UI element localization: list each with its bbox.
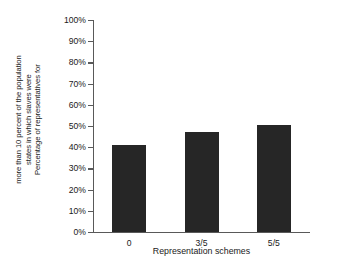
y-axis-tick-mark — [88, 105, 93, 106]
bar — [112, 145, 146, 232]
y-axis-title-line-2: states in which slaves were — [23, 75, 33, 166]
y-axis-tick-mark — [88, 41, 93, 42]
y-axis-line — [93, 20, 94, 232]
y-axis-tick-label: 20% — [69, 185, 86, 195]
y-axis-tick-mark — [88, 126, 93, 127]
bar — [185, 132, 219, 232]
y-axis-title-text: Percentage of representatives for states… — [13, 56, 42, 185]
y-axis-tick-label: 50% — [69, 121, 86, 131]
y-axis-tick-mark — [88, 20, 93, 21]
y-axis-title: Percentage of representatives for states… — [0, 0, 56, 240]
x-axis-title: Representation schemes — [93, 246, 310, 256]
y-axis-tick-label: 100% — [64, 15, 86, 25]
y-axis-title-line-1: Percentage of representatives for — [33, 65, 43, 176]
bar — [257, 125, 291, 232]
y-axis-tick-mark — [88, 62, 93, 63]
y-axis-tick-label: 60% — [69, 100, 86, 110]
y-axis-title-line-3: more than 10 percent of the population — [13, 56, 23, 185]
y-axis-tick-label: 70% — [69, 79, 86, 89]
y-axis-tick-mark — [88, 232, 93, 233]
y-axis-tick-label: 80% — [69, 57, 86, 67]
bar-chart-figure: Percentage of representatives for states… — [0, 0, 342, 267]
plot-area: 0%10%20%30%40%50%60%70%80%90%100% 03/55/… — [93, 20, 310, 232]
y-axis-tick-label: 30% — [69, 163, 86, 173]
y-axis-tick-label: 40% — [69, 142, 86, 152]
y-axis-tick-mark — [88, 190, 93, 191]
y-axis-tick-mark — [88, 168, 93, 169]
y-axis-tick-mark — [88, 147, 93, 148]
y-axis-tick-label: 0% — [74, 227, 86, 237]
y-axis-tick-label: 10% — [69, 206, 86, 216]
y-axis-tick-label: 90% — [69, 36, 86, 46]
x-axis-line — [93, 232, 310, 233]
y-axis-tick-mark — [88, 211, 93, 212]
y-axis-tick-mark — [88, 84, 93, 85]
